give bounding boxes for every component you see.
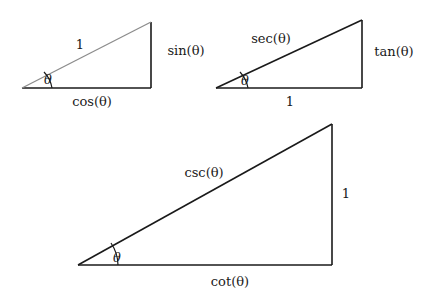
triangle-1-vertical-label: sin(θ) [167, 44, 204, 57]
triangles-vector-layer [0, 0, 427, 308]
trigonometry-triangles-figure: 1 sin(θ) cos(θ) θ sec(θ) tan(θ) 1 θ csc(… [0, 0, 427, 308]
triangle-3-base-label: cot(θ) [211, 275, 249, 288]
triangle-3-hypotenuse-label: csc(θ) [184, 166, 223, 179]
triangle-2-angle-label: θ [241, 74, 249, 87]
unit-hypotenuse-line [22, 22, 151, 88]
csc-hypotenuse-line [78, 124, 332, 265]
triangle-1-angle-label: θ [44, 73, 52, 86]
cosecant-cotangent-triangle-shape [78, 124, 332, 265]
triangle-3-vertical-label: 1 [342, 187, 350, 200]
triangle-3-angle-label: θ [113, 251, 121, 264]
sine-cosine-triangle-shape [22, 22, 151, 88]
triangle-1-base-label: cos(θ) [72, 95, 112, 108]
triangle-2-base-label: 1 [286, 95, 294, 108]
triangle-2-hypotenuse-label: sec(θ) [251, 32, 291, 45]
triangle-2-vertical-label: tan(θ) [374, 45, 413, 58]
triangle-1-hypotenuse-label: 1 [76, 38, 84, 51]
